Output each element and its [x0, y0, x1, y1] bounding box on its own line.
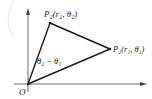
point-origin: [27, 83, 30, 86]
x-axis-arrow-icon: [140, 82, 147, 86]
segment-o-p2: [28, 23, 50, 84]
point-p1: [109, 48, 112, 51]
y-axis-arrow-icon: [26, 8, 30, 15]
label-p1: P₁(r₁, θ₁): [113, 45, 144, 54]
segment-p2-p1: [50, 23, 110, 49]
label-angle: θ₂ − θ₁: [37, 57, 61, 66]
label-origin: O: [19, 88, 26, 97]
segment-o-p1: [28, 49, 110, 84]
label-p2: P₂(r₂, θ₂): [44, 10, 77, 19]
point-p2: [49, 22, 52, 25]
faint-background-arc: [8, 0, 14, 38]
